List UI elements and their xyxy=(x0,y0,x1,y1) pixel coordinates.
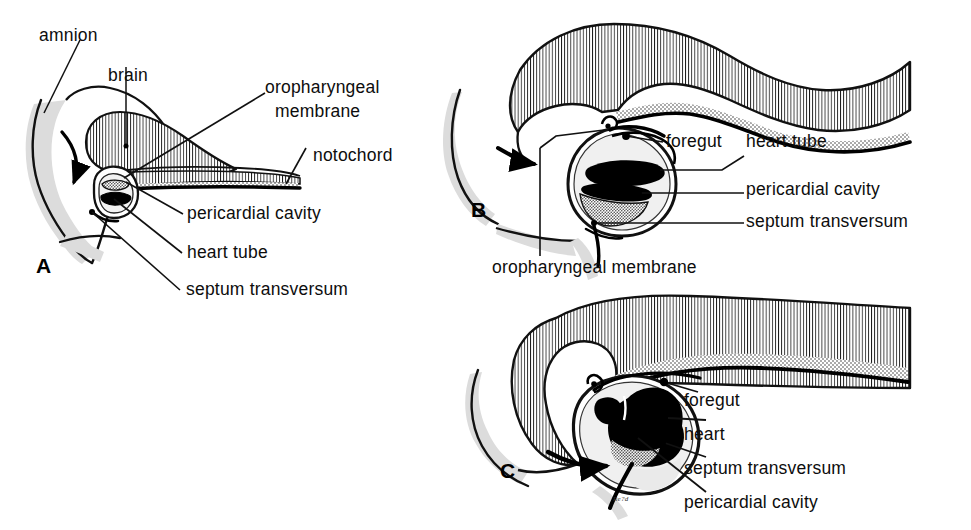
panel-c-oro-dot xyxy=(591,381,597,387)
panel-a-heart-tube xyxy=(101,192,131,205)
panel-letter-c: C xyxy=(500,459,515,483)
label-b-oropharyngeal-membrane: oropharyngeal membrane xyxy=(492,258,697,276)
label-c-septum-transversum: septum transversum xyxy=(684,459,846,477)
embryology-figure: amnion brain oropharyngeal membrane noto… xyxy=(0,0,971,530)
label-c-heart: heart xyxy=(684,425,725,443)
artist-signature: Re?d xyxy=(613,495,629,503)
label-b-septum-transversum: septum transversum xyxy=(746,212,908,230)
label-a-pericardial-cavity: pericardial cavity xyxy=(187,204,321,222)
label-a-oropharyngeal-membrane-line1: oropharyngeal xyxy=(265,78,380,96)
panel-a-notochord xyxy=(126,187,300,189)
label-c-foregut: foregut xyxy=(684,391,740,409)
label-a-amnion: amnion xyxy=(39,26,98,44)
label-b-heart-tube: heart tube xyxy=(746,132,827,150)
leader-a-septum xyxy=(92,212,180,290)
label-a-brain: brain xyxy=(108,66,148,84)
label-c-pericardial-cavity: pericardial cavity xyxy=(684,493,818,511)
label-a-septum-transversum: septum transversum xyxy=(186,280,348,298)
label-b-pericardial-cavity: pericardial cavity xyxy=(746,180,880,198)
panel-letter-a: A xyxy=(36,254,51,278)
panel-b-drawing xyxy=(443,24,910,280)
label-b-foregut: foregut xyxy=(666,132,722,150)
panel-letter-b: B xyxy=(471,198,486,222)
label-a-heart-tube: heart tube xyxy=(187,243,268,261)
panel-b-fold-arrow xyxy=(498,148,534,164)
label-a-oropharyngeal-membrane-line2: membrane xyxy=(275,102,360,120)
label-a-notochord: notochord xyxy=(313,146,393,164)
panel-b-amnion-shadow xyxy=(443,92,495,226)
panel-a-fold-arrow xyxy=(62,132,77,182)
panel-a-heart-tube-lumen xyxy=(102,180,129,190)
